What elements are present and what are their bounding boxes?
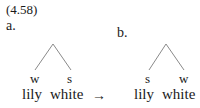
tree-b-word-right: white xyxy=(162,87,195,102)
tree-a-word-right: white xyxy=(50,87,83,102)
tree-b-word-left: lily xyxy=(134,87,154,102)
arrow-icon: → xyxy=(92,89,106,103)
tree-a-word-left: lily xyxy=(22,87,42,102)
tree-b-node-right: w xyxy=(179,72,188,85)
tree-a-node-left: w xyxy=(30,72,39,85)
tree-b-node-left: s xyxy=(145,72,150,85)
tree-a-node-right: s xyxy=(67,72,72,85)
panel-b-label: b. xyxy=(117,26,128,40)
